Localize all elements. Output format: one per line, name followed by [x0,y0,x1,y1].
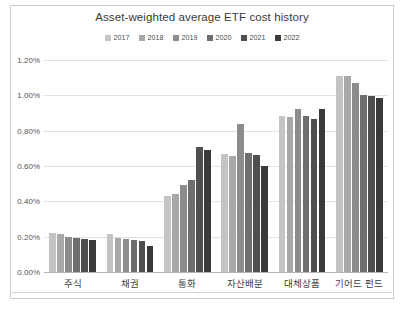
bar[interactable] [221,154,228,272]
bar[interactable] [73,238,80,272]
bar-group-자산배분 [216,60,273,272]
legend-label: 2021 [250,34,266,41]
bar-group-기어드 펀드 [331,60,388,272]
axis-separator-rule [12,292,392,293]
bar[interactable] [115,238,122,272]
bar[interactable] [261,166,268,272]
plot-area [44,60,388,272]
bar-group-통화 [159,60,216,272]
legend-swatch-icon [207,35,213,41]
legend-swatch-icon [241,35,247,41]
legend-label: 2018 [148,34,164,41]
x-axis-label: 기어드 펀드 [331,276,388,290]
y-axis-tick-label: 0.80% [0,126,40,135]
legend-item-2018[interactable]: 2018 [139,34,164,41]
bar[interactable] [319,109,326,272]
bar[interactable] [344,76,351,272]
bar[interactable] [352,83,359,272]
bar[interactable] [311,119,318,272]
bar[interactable] [81,239,88,272]
bar[interactable] [303,116,310,272]
bar[interactable] [253,155,260,272]
bar[interactable] [57,234,64,272]
y-axis-tick-label: 0.40% [0,197,40,206]
bar[interactable] [123,239,130,272]
y-axis-tick-labels: 1.20%1.00%0.80%0.60%0.40%0.20%0.00% [0,60,40,272]
chart-legend: 201720182019202020212022 [0,34,404,41]
y-axis-tick-label: 0.60% [0,162,40,171]
bar-group-주식 [44,60,101,272]
bar[interactable] [139,241,146,272]
bar[interactable] [376,98,383,272]
chart-container: Asset-weighted average ETF cost history … [0,0,404,309]
x-axis-line [44,272,388,273]
bar[interactable] [172,194,179,272]
bar-group-채권 [101,60,158,272]
legend-item-2019[interactable]: 2019 [173,34,198,41]
bar[interactable] [131,240,138,272]
bar[interactable] [336,76,343,272]
bar-groups [44,60,388,272]
x-axis-category-labels: 주식채권통화자산배분대체상품기어드 펀드 [44,276,388,290]
y-axis-tick-label: 0.00% [0,268,40,277]
bar[interactable] [368,96,375,272]
bar[interactable] [107,234,114,272]
x-axis-label: 대체상품 [273,276,330,290]
bar[interactable] [49,233,56,272]
bar[interactable] [229,156,236,272]
bar[interactable] [180,185,187,272]
legend-item-2021[interactable]: 2021 [241,34,266,41]
y-axis-tick-label: 0.20% [0,232,40,241]
legend-label: 2020 [216,34,232,41]
x-axis-label: 통화 [159,276,216,290]
bar[interactable] [147,246,154,273]
y-axis-tick-label: 1.00% [0,91,40,100]
legend-label: 2019 [182,34,198,41]
legend-swatch-icon [173,35,179,41]
bar[interactable] [188,180,195,272]
legend-label: 2017 [114,34,130,41]
bar[interactable] [89,240,96,272]
legend-item-2017[interactable]: 2017 [105,34,130,41]
legend-label: 2022 [284,34,300,41]
chart-title: Asset-weighted average ETF cost history [0,11,404,23]
legend-swatch-icon [105,35,111,41]
x-axis-label: 주식 [44,276,101,290]
bar[interactable] [237,124,244,272]
legend-swatch-icon [275,35,281,41]
bar[interactable] [196,147,203,272]
bar[interactable] [279,116,286,272]
bar[interactable] [164,196,171,272]
x-axis-label: 자산배분 [216,276,273,290]
bar-group-대체상품 [273,60,330,272]
bar[interactable] [360,95,367,272]
legend-item-2022[interactable]: 2022 [275,34,300,41]
bar[interactable] [295,109,302,272]
bar[interactable] [287,117,294,272]
bar[interactable] [245,153,252,272]
legend-item-2020[interactable]: 2020 [207,34,232,41]
bar[interactable] [204,150,211,272]
legend-swatch-icon [139,35,145,41]
y-axis-tick-label: 1.20% [0,56,40,65]
x-axis-label: 채권 [101,276,158,290]
bar[interactable] [65,237,72,272]
